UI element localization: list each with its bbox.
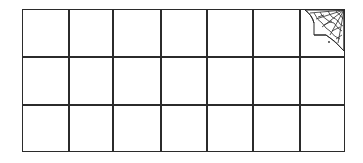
grid-column-line [252, 9, 254, 152]
grid-3x7 [22, 9, 345, 152]
grid-border [22, 9, 345, 152]
grid-column-line [112, 9, 114, 152]
grid-column-line [160, 9, 162, 152]
grid-column-line [206, 9, 208, 152]
grid-row-line [22, 104, 345, 106]
grid-column-line [68, 9, 70, 152]
cobweb-icon [300, 9, 345, 56]
grid-row-line [22, 56, 345, 58]
